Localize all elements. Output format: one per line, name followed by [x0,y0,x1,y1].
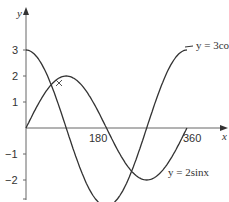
chart: y x 3 2 1 −1 −2 180 360 y = 3cosx y = 2s… [0,0,229,202]
intersection-marker-icon [56,80,62,86]
x-axis-label: x [221,130,227,142]
y-tick-neg2: −2 [5,174,18,186]
y-ticks: 3 2 1 −1 −2 [5,44,26,199]
y-tick-neg1: −1 [5,148,18,160]
x-tick-360: 360 [183,132,201,144]
curve-3cosx [26,50,187,202]
y-tick-3: 3 [12,44,18,56]
sin-curve-label: y = 2sinx [168,166,210,178]
x-tick-180: 180 [89,132,107,144]
y-tick-2: 2 [12,70,18,82]
y-tick-1: 1 [12,96,18,108]
y-axis-arrow-icon [23,7,29,15]
y-axis-label: y [16,7,22,19]
cos-curve-label: y = 3cosx [196,39,229,51]
